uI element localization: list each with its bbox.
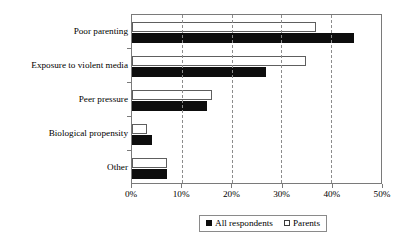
gridline-40pct [331,15,332,183]
category-tick [127,82,131,83]
legend-label: Parents [293,217,320,229]
gridline-10pct [182,15,183,183]
category-tick [127,150,131,151]
bar-all-respondents [132,169,167,179]
bar-parents [132,90,212,100]
bar-group [132,49,381,83]
x-axis-tick [131,184,132,188]
bar-bands [132,15,381,183]
bar-parents [132,124,147,134]
legend-entry: Parents [284,217,320,229]
bar-group [132,15,381,49]
category-tick [127,116,131,117]
x-axis-tick [282,184,283,188]
x-axis-tick [181,184,182,188]
bar-all-respondents [132,67,266,77]
gridline-30pct [281,15,282,183]
x-axis-label: 0% [111,189,151,200]
legend-entry: All respondents [206,217,273,229]
legend-swatch-icon [206,220,212,226]
bar-group [132,151,381,185]
x-axis-tick [332,184,333,188]
legend-swatch-icon [284,220,290,226]
legend-label: All respondents [215,217,273,229]
category-label: Biological propensity [4,128,128,138]
chart-legend: All respondentsParents [199,215,327,232]
bar-parents [132,56,306,66]
x-axis-label: 40% [312,189,352,200]
x-axis-label: 10% [161,189,201,200]
bar-all-respondents [132,33,354,43]
bar-group [132,83,381,117]
gridline-20pct [232,15,233,183]
bar-all-respondents [132,101,207,111]
bar-all-respondents [132,135,152,145]
bar-group [132,117,381,151]
category-label: Exposure to violent media [4,60,128,70]
category-label: Peer pressure [4,94,128,104]
category-axis-labels: Poor parentingExposure to violent mediaP… [4,14,128,184]
x-axis-label: 20% [211,189,251,200]
bar-parents [132,22,316,32]
x-axis-tick [382,184,383,188]
category-label: Poor parenting [4,26,128,36]
category-label: Other [4,162,128,172]
plot-area [131,14,382,184]
x-axis-label: 50% [362,189,402,200]
bar-parents [132,158,167,168]
category-tick [127,48,131,49]
x-axis-label: 30% [262,189,302,200]
bar-chart: Poor parentingExposure to violent mediaP… [0,0,420,245]
x-axis-tick [231,184,232,188]
